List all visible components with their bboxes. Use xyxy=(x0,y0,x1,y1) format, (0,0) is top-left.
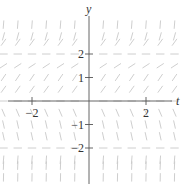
y-tick-label: 1 xyxy=(78,71,84,85)
slope-segment xyxy=(58,86,63,93)
slope-segment xyxy=(115,86,120,93)
slope-segment xyxy=(102,120,104,128)
slope-segment xyxy=(131,32,133,40)
slope-segment xyxy=(45,109,48,117)
slope-segment xyxy=(59,32,61,40)
slope-segment xyxy=(28,63,35,68)
slope-segment xyxy=(59,109,62,117)
slope-segment xyxy=(145,132,147,140)
slope-segment xyxy=(174,20,175,28)
slope-segment xyxy=(17,20,18,28)
slope-segment xyxy=(102,32,104,40)
slope-segment xyxy=(159,32,161,40)
slope-segment xyxy=(58,74,63,81)
slope-segment xyxy=(30,39,35,46)
slope-segment xyxy=(172,86,177,93)
slope-segment xyxy=(117,20,118,28)
slope-segment xyxy=(1,86,6,93)
slope-segment xyxy=(101,74,106,81)
slope-segment xyxy=(172,74,177,81)
slope-segment xyxy=(43,63,50,68)
slope-segment xyxy=(15,74,20,81)
slope-segment xyxy=(2,32,4,40)
slope-segment xyxy=(146,20,147,28)
slope-segment xyxy=(157,63,164,68)
slope-segment xyxy=(3,132,5,140)
slope-segment xyxy=(3,20,4,28)
slope-segment xyxy=(46,20,47,28)
slope-segment xyxy=(102,132,104,140)
slope-segment xyxy=(159,109,162,117)
slope-segment xyxy=(1,39,6,46)
slope-segment xyxy=(116,32,118,40)
slope-segment xyxy=(15,39,20,46)
slope-segment xyxy=(159,120,161,128)
slope-segment xyxy=(172,39,177,46)
slope-segment xyxy=(2,109,5,117)
t-tick-label: 2 xyxy=(143,106,149,120)
slope-segment xyxy=(129,39,134,46)
y-tick-label: 2 xyxy=(78,47,84,61)
t-tick-label: −2 xyxy=(26,106,39,120)
slope-segment xyxy=(45,132,47,140)
slope-segment xyxy=(14,63,21,68)
slope-segment xyxy=(44,74,49,81)
slope-segment xyxy=(31,120,33,128)
slope-segment xyxy=(72,39,77,46)
slope-segment xyxy=(32,20,33,28)
slope-segment xyxy=(73,109,76,117)
y-axis-label: y xyxy=(85,2,92,16)
slope-segment xyxy=(31,132,33,140)
slope-segment xyxy=(60,132,62,140)
slope-segment xyxy=(30,74,35,81)
slope-segment xyxy=(173,32,175,40)
slope-segment xyxy=(74,132,76,140)
slope-segment xyxy=(129,74,134,81)
slope-segment xyxy=(17,120,19,128)
slope-segment xyxy=(158,39,163,46)
slope-segment xyxy=(17,132,19,140)
slope-segment xyxy=(3,120,5,128)
slope-segment xyxy=(129,86,134,93)
slope-segment xyxy=(74,32,76,40)
slope-segment xyxy=(101,86,106,93)
y-tick-label: −2 xyxy=(71,141,84,155)
slope-segment xyxy=(102,109,105,117)
slope-segment xyxy=(72,86,77,93)
slope-segment xyxy=(128,63,135,68)
slope-segment xyxy=(158,86,163,93)
slope-segment xyxy=(15,86,20,93)
slope-segment xyxy=(101,39,106,46)
slope-segment xyxy=(115,74,120,81)
slope-segment xyxy=(117,120,119,128)
slope-segment xyxy=(158,74,163,81)
slope-segment xyxy=(145,32,147,40)
slope-segment xyxy=(72,74,77,81)
slope-segment xyxy=(144,39,149,46)
slope-segment xyxy=(45,120,47,128)
slope-segment xyxy=(16,109,19,117)
slope-segment xyxy=(145,120,147,128)
slope-segment xyxy=(57,63,64,68)
slope-segment xyxy=(117,132,119,140)
slope-field-chart: −2221−1−2 t y xyxy=(0,0,190,191)
slope-segment xyxy=(144,86,149,93)
slope-segment xyxy=(142,63,149,68)
slope-segment xyxy=(17,32,19,40)
slope-segment xyxy=(100,63,107,68)
slope-segment xyxy=(130,109,133,117)
slope-segment xyxy=(131,132,133,140)
slope-segment xyxy=(171,63,178,68)
slope-segment xyxy=(1,74,6,81)
slope-segment xyxy=(44,39,49,46)
slope-segment xyxy=(103,20,104,28)
slope-segment xyxy=(31,32,33,40)
slope-segment xyxy=(174,132,176,140)
slope-segment xyxy=(116,109,119,117)
slope-segment xyxy=(131,120,133,128)
slope-segment xyxy=(115,39,120,46)
slope-segment xyxy=(173,109,176,117)
slope-segment xyxy=(60,120,62,128)
slope-segment xyxy=(60,20,61,28)
slope-segment xyxy=(45,32,47,40)
